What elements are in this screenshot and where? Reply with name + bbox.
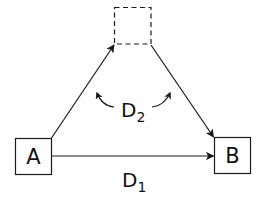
d1-label: D1 (122, 168, 146, 195)
intermediate-node (115, 8, 152, 45)
node-b: B (215, 138, 251, 174)
edge-intermediate-to-b (151, 45, 214, 137)
node-a-label: A (26, 145, 41, 169)
d2-main: D (121, 98, 136, 122)
node-b-label: B (225, 144, 239, 168)
d2-right-curved-arrow (152, 93, 170, 107)
edge-a-to-intermediate (52, 45, 115, 138)
node-a: A (16, 139, 52, 175)
d1-subscript: 1 (137, 179, 146, 195)
d2-subscript: 2 (136, 109, 145, 125)
dashed-box (115, 8, 152, 45)
diagram-canvas: A B D2 D1 (0, 0, 266, 203)
d2-label: D2 (121, 98, 145, 125)
d2-left-curved-arrow (97, 93, 114, 107)
d1-main: D (122, 168, 137, 192)
